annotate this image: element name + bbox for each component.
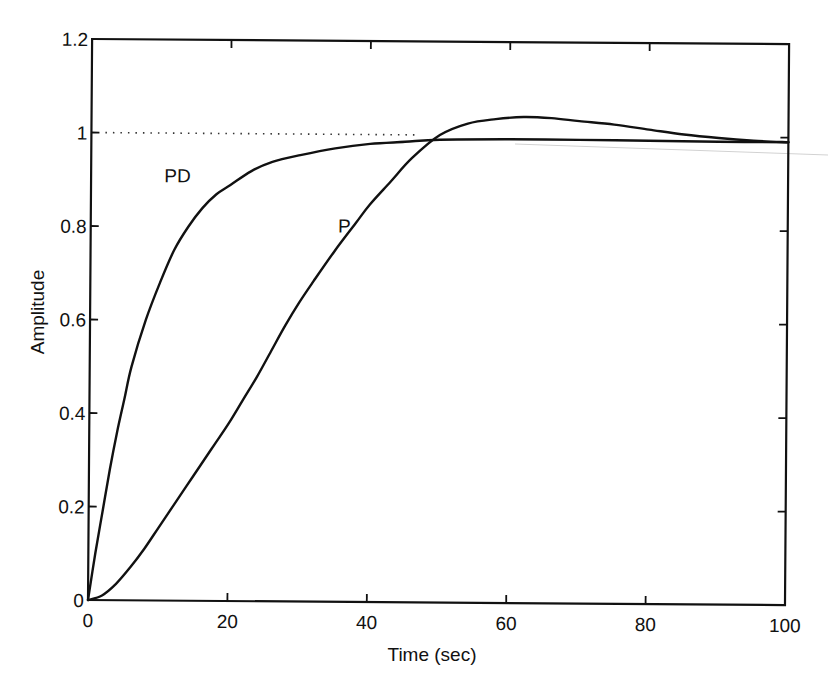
y-tick-label: 0.2 (58, 496, 85, 517)
x-tick-label: 60 (495, 613, 516, 634)
y-tick-label: 0 (73, 590, 84, 611)
y-tick-label: 0.6 (60, 309, 87, 330)
curve-label-p: P (338, 215, 351, 236)
curve-annotations: PDP (164, 165, 351, 236)
y-tick-label: 0.4 (59, 403, 86, 424)
reference-line-unity (105, 133, 419, 135)
x-axis-label: Time (sec) (387, 644, 476, 665)
y-tick-label: 1.2 (62, 29, 89, 50)
scan-artifact-line (515, 144, 828, 155)
x-tick-label: 0 (82, 610, 93, 631)
axis-ticks (88, 39, 789, 605)
x-tick-label: 100 (769, 615, 801, 636)
axes-frame (88, 39, 789, 605)
data-series (88, 114, 789, 605)
y-tick-label: 1 (77, 122, 88, 143)
series-line-p (88, 114, 789, 605)
x-tick-label: 40 (356, 612, 377, 633)
x-tick-label: 20 (217, 611, 238, 632)
step-response-chart: 02040608010000.20.40.60.811.2 PDP Time (… (0, 0, 828, 682)
axis-tick-labels: 02040608010000.20.40.60.811.2 (57, 29, 805, 636)
x-tick-label: 80 (635, 614, 656, 635)
y-tick-label: 0.8 (60, 216, 87, 237)
series-line-pd (88, 136, 788, 605)
plot-area: 02040608010000.20.40.60.811.2 PDP (57, 29, 805, 636)
curve-label-pd: PD (164, 165, 191, 186)
y-axis-label: Amplitude (27, 270, 48, 355)
